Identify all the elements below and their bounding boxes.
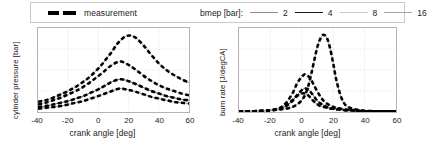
burn-rate-chart: burn rate [J/degCA] -40-200204060 crank … (205, 24, 410, 147)
measurement-curve (38, 35, 189, 101)
legend-bmep-item-16: 16 (384, 8, 426, 18)
y-axis-label: cylinder pressure [bar] (11, 42, 20, 119)
y-axis-label: burn rate [J/degCA] (218, 48, 227, 116)
x-tick-label: 20 (329, 116, 338, 125)
simulation-curve (239, 93, 396, 111)
x-tick-label: -20 (264, 116, 276, 125)
x-tick-label: 60 (393, 116, 402, 125)
x-axis-ticks: -40-200204060 (0, 116, 205, 128)
line-swatch-icon (250, 12, 278, 13)
x-tick-label: 60 (186, 116, 195, 125)
x-tick-label: 0 (96, 116, 100, 125)
measurement-curve (38, 79, 189, 107)
line-swatch-icon (384, 12, 412, 13)
cylinder-pressure-chart: cylinder pressure [bar] -40-200204060 cr… (0, 24, 205, 147)
dashed-line-swatch-icon (48, 11, 78, 15)
legend-bmep-value: 2 (283, 8, 288, 18)
legend-bmep-value: 8 (373, 8, 378, 18)
x-axis-label: crank angle [deg] (0, 128, 205, 138)
x-tick-label: -40 (232, 116, 244, 125)
legend-bmep-title: bmep [bar]: (200, 8, 243, 18)
x-tick-label: -20 (62, 116, 74, 125)
legend-bmep-value: 4 (328, 8, 333, 18)
legend-bmep-item-8: 8 (340, 8, 378, 18)
x-tick-label: 40 (155, 116, 164, 125)
plot-area (238, 27, 397, 113)
x-tick-label: 20 (124, 116, 133, 125)
measurement-curve (239, 93, 396, 111)
x-tick-label: 40 (361, 116, 370, 125)
legend-bmep-item-2: 2 (250, 8, 288, 18)
x-axis-label: crank angle [deg] (205, 128, 410, 138)
x-tick-label: 0 (299, 116, 303, 125)
measurement-curve (38, 62, 189, 105)
line-swatch-icon (295, 12, 323, 13)
legend-measurement-entry: measurement (48, 8, 137, 18)
legend-bmep-item-4: 4 (295, 8, 333, 18)
chart-legend: measurement bmep [bar]: 2 4 8 16 (30, 2, 405, 23)
legend-measurement-label: measurement (84, 8, 137, 18)
line-swatch-icon (340, 12, 368, 13)
simulation-curve (38, 35, 189, 101)
legend-bmep-group: bmep [bar]: 2 4 8 16 (200, 8, 427, 18)
x-axis-ticks: -40-200204060 (205, 116, 410, 128)
legend-bmep-value: 16 (417, 8, 426, 18)
x-tick-label: -40 (31, 116, 43, 125)
plot-area (37, 27, 190, 113)
